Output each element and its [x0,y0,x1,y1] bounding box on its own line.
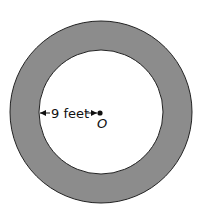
radius-label: 9 feet [51,106,89,121]
center-point [97,110,102,115]
center-label: O [97,116,107,131]
annulus-diagram: 9 feet O [0,0,201,220]
